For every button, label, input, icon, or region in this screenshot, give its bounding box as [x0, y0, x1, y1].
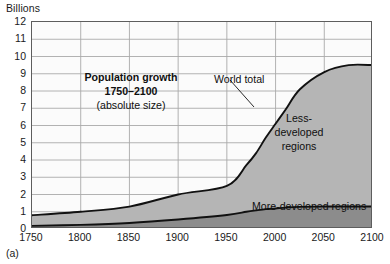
y-tick-7: 7 — [4, 101, 26, 113]
y-tick-5: 5 — [4, 136, 26, 148]
y-tick-9: 9 — [4, 67, 26, 79]
y-tick-1: 1 — [4, 205, 26, 217]
x-tick-2000: 2000 — [253, 231, 297, 243]
x-tick-1850: 1850 — [106, 231, 150, 243]
less-developed-line-3: regions — [264, 139, 334, 153]
more-developed-regions-label: More-developed regions — [252, 200, 366, 212]
y-tick-6: 6 — [4, 119, 26, 131]
y-tick-4: 4 — [4, 153, 26, 165]
population-growth-figure: Billions 0123456789101112 17501800185019… — [0, 0, 390, 264]
title-line-1: Population growth — [66, 70, 196, 84]
x-tick-1900: 1900 — [155, 231, 199, 243]
x-tick-1950: 1950 — [204, 231, 248, 243]
y-tick-2: 2 — [4, 188, 26, 200]
y-tick-11: 11 — [4, 32, 26, 44]
figure-caption: (a) — [6, 247, 19, 259]
y-tick-10: 10 — [4, 50, 26, 62]
title-line-2: 1750–2100 — [66, 84, 196, 98]
x-tick-1750: 1750 — [9, 231, 53, 243]
title-line-3: (absolute size) — [66, 98, 196, 112]
x-tick-2050: 2050 — [301, 231, 345, 243]
y-tick-12: 12 — [4, 15, 26, 27]
x-tick-1800: 1800 — [58, 231, 102, 243]
x-tick-2100: 2100 — [350, 231, 390, 243]
world-total-label: World total — [214, 73, 264, 85]
chart-title-annotation: Population growth 1750–2100 (absolute si… — [66, 70, 196, 112]
y-axis-unit-label: Billions — [6, 2, 40, 14]
less-developed-line-1: Less- — [264, 111, 334, 125]
less-developed-regions-label: Less- developed regions — [264, 111, 334, 153]
y-tick-3: 3 — [4, 170, 26, 182]
less-developed-line-2: developed — [264, 125, 334, 139]
y-tick-8: 8 — [4, 84, 26, 96]
